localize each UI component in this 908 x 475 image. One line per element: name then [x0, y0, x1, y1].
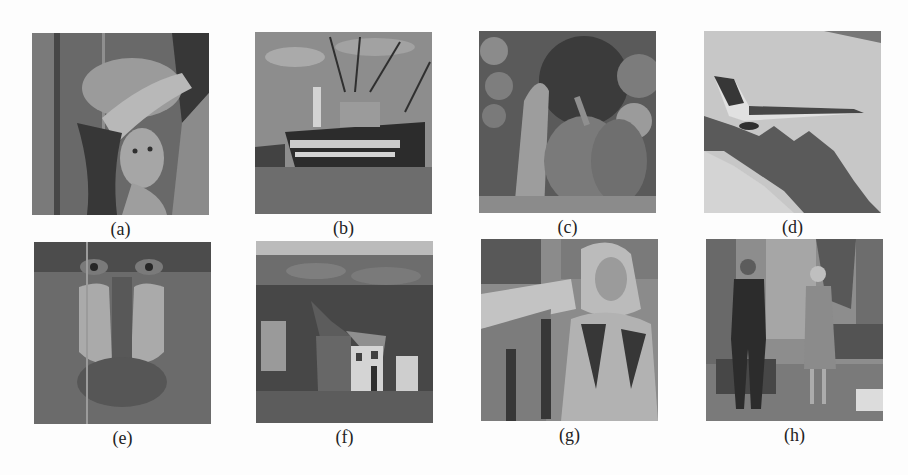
image-woman-with-hat: [32, 33, 209, 215]
caption-d: (d): [704, 217, 881, 237]
image-couple-in-room: [706, 239, 883, 421]
image-fishing-boats: [255, 32, 432, 214]
image-woman-headscarf: [481, 239, 658, 421]
panel-h: (h): [706, 239, 883, 421]
panel-d: (d): [704, 31, 881, 213]
image-fighter-jet: [704, 31, 881, 213]
panel-b: (b): [255, 32, 432, 214]
image-village-street: [256, 241, 433, 423]
image-mandrill: [34, 242, 211, 424]
panel-a: (a): [32, 33, 209, 215]
caption-b: (b): [255, 218, 432, 238]
panel-c: (c): [479, 31, 656, 213]
caption-g: (g): [481, 425, 658, 445]
caption-h: (h): [706, 425, 883, 445]
caption-e: (e): [34, 428, 211, 448]
panel-f: (f): [256, 241, 433, 423]
caption-a: (a): [32, 219, 209, 239]
image-peppers: [479, 31, 656, 213]
panel-g: (g): [481, 239, 658, 421]
caption-c: (c): [479, 217, 656, 237]
caption-f: (f): [256, 427, 433, 447]
panel-e: (e): [34, 242, 211, 424]
